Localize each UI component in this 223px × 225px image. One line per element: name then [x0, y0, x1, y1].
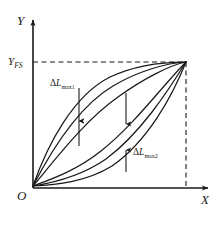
axes-group — [33, 20, 208, 188]
x-axis-label: X — [201, 193, 209, 206]
y-fs-tick-label: YFS — [8, 56, 22, 70]
origin-label: O — [17, 189, 26, 202]
delta-subscript-1: max1 — [61, 84, 74, 90]
delta-l-max-1-label: ΔLmax1 — [50, 79, 75, 90]
diagram-canvas — [0, 0, 223, 225]
y-axis-label: Y — [17, 14, 24, 27]
y-fs-subscript: FS — [14, 61, 22, 70]
deviation-arrows-group — [79, 88, 126, 172]
hysteresis-error-diagram: Y X O YFS ΔLmax1 ΔLmax2 — [0, 0, 223, 225]
delta-subscript-2: max2 — [144, 153, 157, 159]
delta-l-max-2-label: ΔLmax2 — [133, 148, 158, 159]
